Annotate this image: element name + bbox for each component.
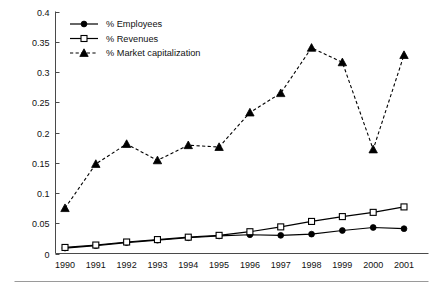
y-tick-label: 0.1 bbox=[37, 189, 50, 199]
y-tick-label: 0 bbox=[44, 250, 49, 260]
data-point bbox=[124, 239, 130, 245]
x-tick-label: 1990 bbox=[55, 260, 75, 270]
data-point bbox=[185, 234, 191, 240]
y-tick-label: 0.05 bbox=[32, 219, 50, 229]
y-tick-label: 0.15 bbox=[32, 159, 50, 169]
y-tick-label: 0.4 bbox=[37, 8, 50, 18]
data-point bbox=[339, 228, 345, 234]
x-tick-label: 1997 bbox=[271, 260, 291, 270]
x-tick-label: 1991 bbox=[86, 260, 106, 270]
x-tick-label: 1994 bbox=[178, 260, 198, 270]
data-point bbox=[278, 232, 284, 238]
data-point bbox=[154, 237, 160, 243]
data-point bbox=[216, 232, 222, 238]
data-point bbox=[370, 225, 376, 231]
data-point bbox=[401, 204, 407, 210]
x-tick-label: 2000 bbox=[363, 260, 383, 270]
chart-figure: 00.050.10.150.20.250.30.350.4 1990199119… bbox=[0, 0, 442, 289]
x-tick-label: 1998 bbox=[302, 260, 322, 270]
data-point bbox=[309, 218, 315, 224]
line-chart: 00.050.10.150.20.250.30.350.4 1990199119… bbox=[0, 0, 442, 289]
x-tick-label: 1996 bbox=[240, 260, 260, 270]
y-axis: 00.050.10.150.20.250.30.350.4 bbox=[32, 8, 60, 260]
legend-label: % Market capitalization bbox=[106, 48, 200, 58]
legend-marker-icon bbox=[81, 21, 87, 27]
x-tick-label: 2001 bbox=[394, 260, 414, 270]
legend-label: % Employees bbox=[106, 19, 163, 29]
data-point bbox=[62, 244, 68, 250]
x-tick-label: 1995 bbox=[209, 260, 229, 270]
y-tick-label: 0.2 bbox=[37, 129, 50, 139]
data-point bbox=[309, 231, 315, 237]
data-point bbox=[339, 214, 345, 220]
x-tick-label: 1993 bbox=[147, 260, 167, 270]
legend-label: % Revenues bbox=[106, 34, 158, 44]
data-point bbox=[93, 242, 99, 248]
y-tick-label: 0.25 bbox=[32, 98, 50, 108]
y-tick-label: 0.35 bbox=[32, 38, 50, 48]
data-point bbox=[278, 224, 284, 230]
data-point bbox=[370, 209, 376, 215]
x-tick-label: 1999 bbox=[332, 260, 352, 270]
y-tick-label: 0.3 bbox=[37, 68, 50, 78]
data-point bbox=[401, 226, 407, 232]
x-tick-label: 1992 bbox=[117, 260, 137, 270]
data-point bbox=[247, 229, 253, 235]
legend-marker-icon bbox=[81, 36, 87, 42]
